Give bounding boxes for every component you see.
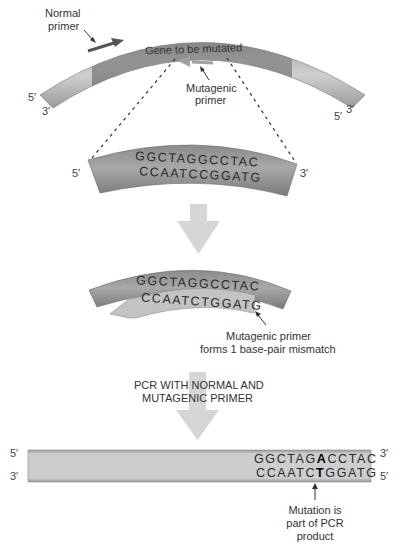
mutagenic-primer-label-1: Mutagenic <box>186 82 237 94</box>
normal-primer-pointer-icon <box>84 30 96 43</box>
product-bottom-strand: CCAATCTGGATG <box>256 466 378 480</box>
mutation-pointer-icon <box>312 483 318 500</box>
mismatch-note-1: Mutagenic primer <box>226 330 311 342</box>
mutated-base-top: A <box>317 452 328 466</box>
arc-right-3prime: 3′ <box>346 103 354 115</box>
product-left-3prime: 3′ <box>10 470 18 482</box>
arc-left-5prime: 5′ <box>28 91 36 103</box>
pcr-step-label-1: PCR WITH NORMAL AND <box>134 379 264 391</box>
mutagenic-primer-label-2: primer <box>195 94 227 106</box>
mutated-base-bottom: T <box>316 466 325 480</box>
segment-5prime: 5′ <box>72 167 80 179</box>
arc-left-3prime: 3′ <box>42 105 50 117</box>
segment-3prime: 3′ <box>300 167 308 179</box>
mismatch-pointer-icon <box>255 311 266 325</box>
pcr-step-label-2: MUTAGENIC PRIMER <box>142 392 253 404</box>
normal-primer-label-2: primer <box>48 20 80 32</box>
mutation-note-3: product <box>297 530 334 542</box>
process-arrow-1-icon <box>177 204 220 254</box>
gene-region <box>92 0 292 120</box>
product-left-5prime: 5′ <box>10 447 18 459</box>
normal-primer-label-1: Normal <box>45 7 80 19</box>
mutation-note-1: Mutation is <box>288 504 342 516</box>
product-right-3prime: 3′ <box>380 447 388 459</box>
mismatch-note-2: forms 1 base-pair mismatch <box>200 343 336 355</box>
arc-right-5prime: 5′ <box>334 110 342 122</box>
mutation-note-2: part of PCR <box>286 517 344 529</box>
product-top-strand: GGCTAGACCTAC <box>254 452 378 466</box>
mutagenesis-diagram: Normal primer Gene to be mutated Mutagen… <box>0 0 399 548</box>
mutagenic-primer-pointer-icon <box>200 66 209 80</box>
product-right-5prime: 5′ <box>380 470 388 482</box>
